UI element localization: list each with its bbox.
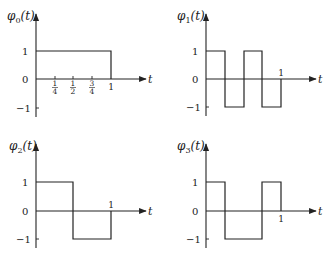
y-tick-0: 0 — [22, 206, 28, 217]
panel-phi1: φ1(t) t 1 0 −1 1 — [177, 9, 323, 116]
svg-text:4: 4 — [90, 87, 95, 96]
y-tick-neg1: −1 — [16, 103, 31, 114]
signal-phi0 — [36, 51, 111, 79]
panel-phi3: φ3(t) t 1 0 −1 1 — [177, 139, 323, 248]
y-tick-0: 0 — [192, 74, 198, 85]
y-axis-label: φ1(t) — [177, 9, 205, 25]
y-tick-neg1: −1 — [16, 234, 31, 245]
svg-text:4: 4 — [53, 87, 58, 96]
y-axis-label: φ3(t) — [177, 139, 205, 155]
y-axis-label: φ0(t) — [7, 9, 35, 25]
y-tick-1: 1 — [22, 177, 28, 188]
panel-phi0: φ0(t) t 1 0 −1 1 4 1 2 3 4 1 — [7, 9, 153, 117]
y-tick-0: 0 — [22, 74, 28, 85]
y-tick-0: 0 — [192, 206, 198, 217]
svg-text:2: 2 — [71, 87, 76, 96]
x-tick-1: 1 — [108, 200, 114, 210]
x-tick-1: 1 — [278, 68, 284, 78]
y-tick-1: 1 — [22, 46, 28, 57]
x-axis-label: t — [148, 205, 153, 218]
x-tick-1: 1 — [278, 214, 284, 224]
walsh-functions-figure: φ0(t) t 1 0 −1 1 4 1 2 3 4 1 φ1(t) t 1 — [0, 0, 328, 257]
y-tick-1: 1 — [192, 46, 198, 57]
y-axis-label: φ2(t) — [9, 139, 37, 155]
x-axis-label: t — [148, 73, 153, 86]
panel-phi2: φ2(t) t 1 0 −1 1 — [9, 139, 153, 248]
y-tick-neg1: −1 — [186, 234, 201, 245]
x-tick-1: 1 — [108, 82, 114, 92]
x-axis-label: t — [318, 73, 323, 86]
y-tick-neg1: −1 — [186, 102, 201, 113]
x-tick-fractions: 1 4 1 2 3 4 — [52, 79, 95, 96]
x-axis-label: t — [318, 205, 323, 218]
y-tick-1: 1 — [192, 177, 198, 188]
